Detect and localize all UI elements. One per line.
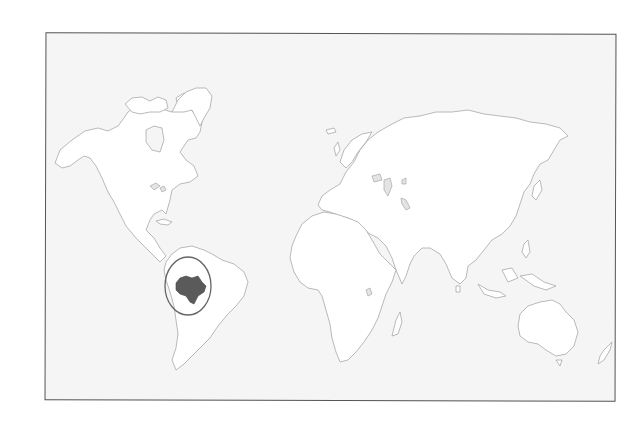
philippines — [522, 240, 530, 258]
madagascar — [392, 312, 402, 336]
tasmania — [556, 360, 562, 366]
indonesia — [478, 268, 556, 298]
iceland — [326, 128, 336, 134]
continent-north-america — [55, 93, 210, 262]
arctic-islands — [125, 97, 168, 114]
continent-south-america — [164, 246, 248, 370]
japan — [532, 180, 542, 200]
world-map — [0, 0, 643, 424]
sri-lanka — [456, 286, 460, 292]
continent-australia — [518, 300, 578, 356]
uk — [334, 142, 340, 156]
cuba — [156, 219, 172, 225]
new-zealand — [598, 342, 612, 364]
